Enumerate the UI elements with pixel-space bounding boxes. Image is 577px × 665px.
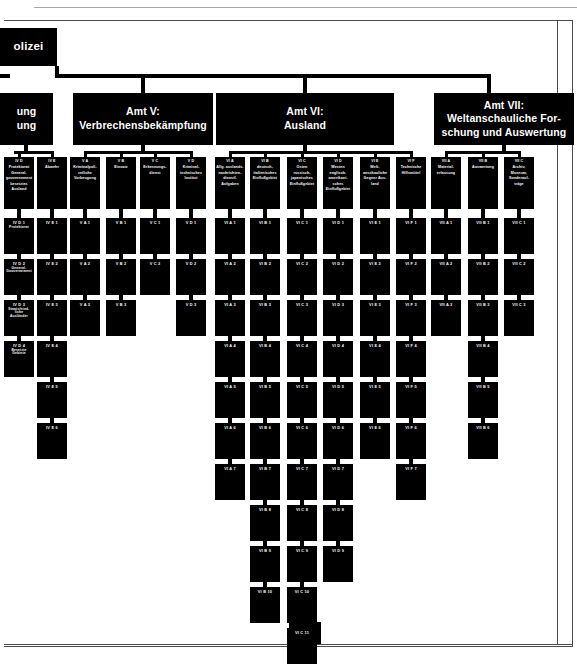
- sub-label: VI D 5: [331, 385, 345, 390]
- sub-box: VI D 5: [323, 382, 353, 418]
- sub-label: VII B 6: [475, 426, 490, 431]
- sub-label: V D 2: [185, 262, 198, 267]
- chart-title-box: olizei: [0, 28, 57, 66]
- sub-box: VII B 6: [468, 423, 498, 459]
- sub-label: VI C 4: [295, 344, 309, 349]
- sub-label: VI C 9: [295, 549, 309, 554]
- sub-box: VII A 3: [431, 300, 461, 336]
- amt-box-cropped: ungung: [0, 93, 53, 145]
- amt-box-vi: Amt VI:Ausland: [216, 93, 394, 145]
- group-box: VI FTechnischeHilfsmittel: [396, 157, 426, 209]
- sub-label: VI E 3: [368, 303, 382, 308]
- sub-box: VI C 6: [287, 423, 317, 459]
- sub-label: IV D 2General-Gouvernement: [5, 262, 33, 274]
- sub-label: VI A 4: [223, 344, 237, 349]
- sub-label: VI F 2: [404, 262, 418, 267]
- sub-box: VII B 5: [468, 382, 498, 418]
- sub-box: VI C 8: [287, 505, 317, 541]
- sub-label: VI F 6: [404, 426, 418, 431]
- sub-label: VI C 3: [295, 303, 309, 308]
- sub-label: VI B 1: [258, 221, 272, 226]
- sub-label: VI F 4: [404, 344, 418, 349]
- sub-label: VI C 10: [294, 590, 310, 595]
- sub-box: IV E 2: [37, 259, 67, 295]
- sub-label: VI C 11: [294, 631, 310, 636]
- sub-label: VI E 6: [368, 426, 382, 431]
- sub-box: VI B 9: [250, 546, 280, 582]
- amt-box-v: Amt V:Verbrechensbekämpfung: [73, 93, 213, 145]
- sub-label: VI B 10: [257, 590, 273, 595]
- sub-label: IV D 1Protektorat: [8, 221, 30, 229]
- sub-box: VI D 7: [323, 464, 353, 500]
- connector-drop-amt-v: [141, 74, 145, 93]
- sub-label: IV D 4BesetzteGebiete: [10, 344, 27, 356]
- sub-box: VI B 8: [250, 505, 280, 541]
- sub-box: VI E 5: [360, 382, 390, 418]
- group-box: VI DWestenenglisch-amerikani-schesEinflu…: [323, 157, 353, 209]
- sub-box: VI C 11: [287, 628, 317, 664]
- connector-drop-amt-vii: [487, 74, 491, 93]
- sub-box: VI C 1: [287, 218, 317, 254]
- sub-box: VII C 2: [504, 259, 534, 295]
- sub-label: IV D 3Staatsfeind-licheAusländer: [7, 303, 30, 319]
- sub-box: VI C 3: [287, 300, 317, 336]
- connector-amt-bus: [230, 151, 411, 154]
- sub-box: VI F 4: [396, 341, 426, 377]
- group-box: V BEinsatz: [106, 157, 136, 209]
- group-label: VI Bdeutsch-italienischesEinflußgebiet: [252, 159, 278, 182]
- group-box: V AKriminalpoli-zeilicheVorbeugung: [70, 157, 100, 209]
- sub-box: IV E 4: [37, 341, 67, 377]
- sub-box: VI D 6: [323, 423, 353, 459]
- sub-label: VI C 5: [295, 385, 309, 390]
- sub-label: VII B 4: [475, 344, 490, 349]
- sub-box: VI D 9: [323, 546, 353, 582]
- sub-box: VI D 8: [323, 505, 353, 541]
- sub-label: V D 1: [185, 221, 198, 226]
- sub-box: V C 1: [140, 218, 170, 254]
- sub-label: V B 3: [115, 303, 128, 308]
- sub-box: VI F 3: [396, 300, 426, 336]
- group-box: VI EWelt-anschaulicheGegner Aus-land: [360, 157, 390, 209]
- sub-box: VII B 3: [468, 300, 498, 336]
- sub-label: VII B 3: [475, 303, 490, 308]
- sub-label: VI A 6: [223, 426, 237, 431]
- group-label: VI FTechnischeHilfsmittel: [400, 159, 423, 176]
- sub-label: V B 2: [115, 262, 128, 267]
- sub-box: V D 3: [176, 300, 206, 336]
- connector-bus: [55, 74, 490, 78]
- amt-vii-label: Amt VII:Weltanschauliche For-schung und …: [441, 99, 568, 140]
- sub-box: VI C 2: [287, 259, 317, 295]
- sub-label: VI B 2: [258, 262, 272, 267]
- sub-label: VI D 3: [331, 303, 345, 308]
- connector-drop-amt-vi: [303, 74, 307, 93]
- sub-label: VII C 1: [511, 221, 526, 226]
- group-label: V CErkennungs-dienst: [142, 159, 167, 176]
- sub-label: VII A 2: [438, 262, 453, 267]
- group-box: V DKriminal-technischesInstitut: [176, 157, 206, 209]
- sub-label: VI C 2: [295, 262, 309, 267]
- sub-box: IV D 3Staatsfeind-licheAusländer: [4, 300, 34, 336]
- sub-box: VI B 6: [250, 423, 280, 459]
- sub-label: VII B 5: [475, 385, 490, 390]
- group-label: VII CArchiv,Museum,Sonderauf-träge: [508, 159, 530, 187]
- group-box: VII BAuswertung: [468, 157, 498, 209]
- group-box: IV DProtektoratGeneral-gouvernementbeset…: [4, 157, 34, 209]
- sub-label: VI D 1: [331, 221, 345, 226]
- group-label: VII BAuswertung: [471, 159, 495, 171]
- sub-box: VI A 1: [215, 218, 245, 254]
- sub-label: VII A 3: [438, 303, 453, 308]
- sub-box: V B 2: [106, 259, 136, 295]
- sub-box: V A 3: [70, 300, 100, 336]
- chart-title-text: olizei: [13, 40, 45, 54]
- group-label: IV DProtektoratGeneral-gouvernementbeset…: [5, 159, 33, 192]
- sub-box: VI A 4: [215, 341, 245, 377]
- sub-box: VI D 1: [323, 218, 353, 254]
- sub-label: VI F 5: [404, 385, 418, 390]
- sub-box: VI C 5: [287, 382, 317, 418]
- sub-label: IV E 5: [45, 385, 59, 390]
- sub-box: VI F 7: [396, 464, 426, 500]
- group-box: VI AAllg. auslands-nachrichten-dienstl.A…: [215, 157, 245, 209]
- sub-box: VII B 4: [468, 341, 498, 377]
- sub-label: VI B 8: [258, 508, 272, 513]
- sub-box: VI F 1: [396, 218, 426, 254]
